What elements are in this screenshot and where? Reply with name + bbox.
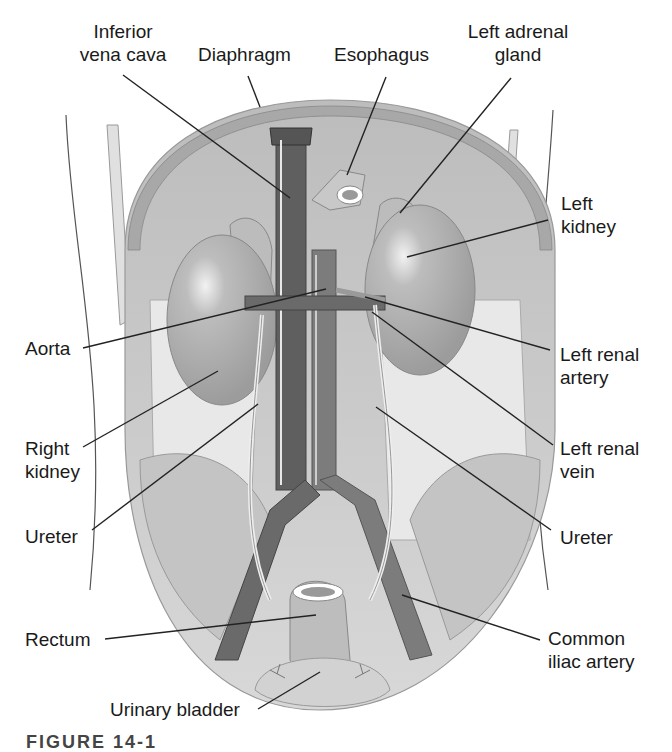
label-left-kidney: Left kidney: [561, 192, 616, 238]
ivc-top: [270, 128, 312, 145]
label-inferior-vena-cava: Inferior vena cava: [68, 20, 178, 66]
label-left-renal-artery: Left renal artery: [560, 343, 639, 389]
label-aorta: Aorta: [25, 337, 70, 360]
label-ureter-left: Ureter: [560, 526, 613, 549]
label-left-renal-vein: Left renal vein: [560, 437, 639, 483]
label-urinary-bladder: Urinary bladder: [110, 698, 240, 721]
label-ureter-right: Ureter: [25, 525, 78, 548]
label-esophagus: Esophagus: [334, 43, 429, 66]
label-diaphragm: Diaphragm: [198, 43, 291, 66]
label-left-adrenal-gland: Left adrenal gland: [463, 20, 573, 66]
label-rectum: Rectum: [25, 628, 90, 651]
label-right-kidney: Right kidney: [25, 437, 80, 483]
label-common-iliac-artery: Common iliac artery: [548, 627, 635, 673]
figure-caption: FIGURE 14-1: [26, 732, 157, 752]
body-outline-left: [66, 115, 96, 590]
